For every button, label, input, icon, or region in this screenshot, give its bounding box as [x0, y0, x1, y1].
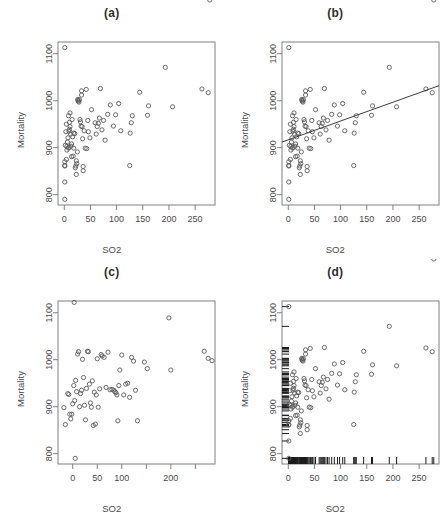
data-point — [202, 349, 206, 353]
data-point — [82, 403, 86, 407]
data-point — [321, 116, 325, 120]
x-tick-label: 150 — [359, 473, 374, 483]
data-point — [305, 428, 309, 432]
data-point — [63, 422, 67, 426]
x-tick-label: 100 — [109, 214, 124, 224]
data-point — [299, 150, 303, 154]
x-tick-label: 200 — [385, 214, 400, 224]
data-point — [108, 103, 112, 107]
data-point — [370, 104, 374, 108]
data-point — [369, 372, 373, 376]
data-point — [308, 87, 312, 91]
y-tick-label: 800 — [44, 446, 54, 461]
data-point — [332, 362, 336, 366]
data-point — [370, 363, 374, 367]
data-point — [63, 197, 67, 201]
data-point — [95, 357, 99, 361]
data-point — [117, 383, 121, 387]
data-point — [311, 136, 315, 140]
data-point — [101, 118, 105, 122]
data-point — [318, 132, 322, 136]
data-point — [167, 316, 171, 320]
data-point — [335, 124, 339, 128]
data-point — [309, 377, 313, 381]
x-tick-label: 50 — [309, 473, 319, 483]
data-point — [431, 259, 435, 261]
y-tick-label: 1100 — [268, 303, 278, 322]
data-point — [171, 105, 175, 109]
x-tick-label: 200 — [163, 473, 178, 483]
x-tick-label: 150 — [359, 214, 374, 224]
data-point — [69, 417, 73, 421]
data-point — [294, 117, 298, 121]
data-point — [81, 137, 85, 141]
data-point — [369, 113, 373, 117]
data-point — [80, 357, 84, 361]
data-point — [104, 385, 108, 389]
data-point — [354, 373, 358, 377]
panel-b-x-axis-title: SO2 — [224, 244, 447, 255]
y-tick-label: 1000 — [44, 350, 54, 370]
data-point — [361, 90, 365, 94]
data-point — [289, 395, 293, 399]
data-point — [286, 197, 290, 201]
panel-c-plot: 05010020080090010001100 — [0, 259, 224, 518]
data-point — [77, 405, 81, 409]
data-point — [286, 180, 290, 184]
x-tick-label: 0 — [285, 214, 290, 224]
data-point — [309, 118, 313, 122]
x-tick-label: 100 — [114, 473, 129, 483]
data-point — [353, 121, 357, 125]
data-point — [86, 118, 90, 122]
data-point — [106, 112, 110, 116]
data-point — [342, 129, 346, 133]
y-tick-label: 800 — [268, 187, 278, 202]
data-point — [304, 137, 308, 141]
data-point — [100, 128, 104, 132]
data-point — [337, 113, 341, 117]
data-point — [81, 169, 85, 173]
data-point — [200, 87, 204, 91]
data-point — [145, 113, 149, 117]
data-point — [340, 360, 344, 364]
panel-a: (a) 05010015020025080090010001100 Mortal… — [0, 0, 224, 259]
data-point — [74, 172, 78, 176]
panel-a-y-axis-title: Mortality — [15, 112, 26, 148]
data-point — [98, 86, 102, 90]
data-point — [68, 124, 72, 128]
data-point — [322, 345, 326, 349]
figure-panel-grid: (a) 05010015020025080090010001100 Mortal… — [0, 0, 447, 518]
y-tick-label: 1000 — [44, 91, 54, 111]
data-point — [305, 169, 309, 173]
panel-b-y-axis-title: Mortality — [239, 112, 250, 148]
y-tick-label: 800 — [268, 446, 278, 461]
data-point — [145, 367, 149, 371]
data-point — [430, 350, 434, 354]
data-point — [208, 0, 212, 2]
data-point — [75, 150, 79, 154]
y-tick-label: 1100 — [268, 44, 278, 63]
x-tick-label: 250 — [411, 473, 426, 483]
data-point — [122, 393, 126, 397]
data-point — [303, 352, 307, 356]
data-point — [128, 131, 132, 135]
data-point — [73, 456, 77, 460]
data-point — [63, 46, 67, 50]
data-point — [305, 423, 309, 427]
data-point — [73, 398, 77, 402]
data-point — [351, 163, 355, 167]
data-point — [163, 65, 167, 69]
data-point — [321, 375, 325, 379]
data-point — [394, 364, 398, 368]
data-point — [303, 348, 307, 352]
y-tick-label: 1100 — [44, 44, 54, 63]
x-tick-label: 50 — [309, 214, 319, 224]
data-point — [304, 396, 308, 400]
data-point — [70, 117, 74, 121]
data-point — [306, 388, 310, 392]
data-point — [113, 113, 117, 117]
panel-d-x-axis-title: SO2 — [224, 503, 447, 514]
data-point — [130, 114, 134, 118]
data-point — [323, 387, 327, 391]
data-point — [313, 367, 317, 371]
